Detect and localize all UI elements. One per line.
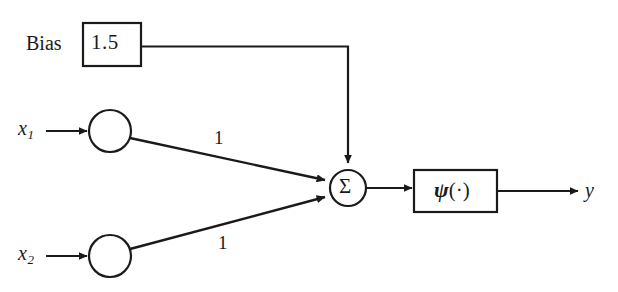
psi-icon: ψ xyxy=(434,177,449,202)
input-node-x1 xyxy=(89,110,131,152)
output-label: y xyxy=(585,180,594,200)
bias-value: 1.5 xyxy=(91,32,119,53)
weight-label-2: 1 xyxy=(218,233,228,252)
input-label-x1: x1 xyxy=(18,118,34,141)
weight-connection-2 xyxy=(130,197,325,249)
bias-label: Bias xyxy=(26,33,62,53)
input-label-x1-base: x xyxy=(18,117,27,139)
input-node-x2 xyxy=(89,235,131,277)
input-label-x2-subscript: 2 xyxy=(27,252,34,267)
activation-function-symbol: ψ(·) xyxy=(434,179,470,201)
weight-label-1: 1 xyxy=(214,128,224,147)
weight-connection-1 xyxy=(130,138,325,180)
summation-symbol: Σ xyxy=(339,176,351,197)
input-label-x1-subscript: 1 xyxy=(27,127,34,142)
bias-connection-line xyxy=(141,47,348,164)
input-label-x2-base: x xyxy=(18,242,27,264)
neural-network-diagram: Bias 1.5 x1 x2 1 1 Σ ψ(·) y xyxy=(0,0,618,292)
input-label-x2: x2 xyxy=(18,243,34,266)
activation-argument: (·) xyxy=(449,178,470,202)
